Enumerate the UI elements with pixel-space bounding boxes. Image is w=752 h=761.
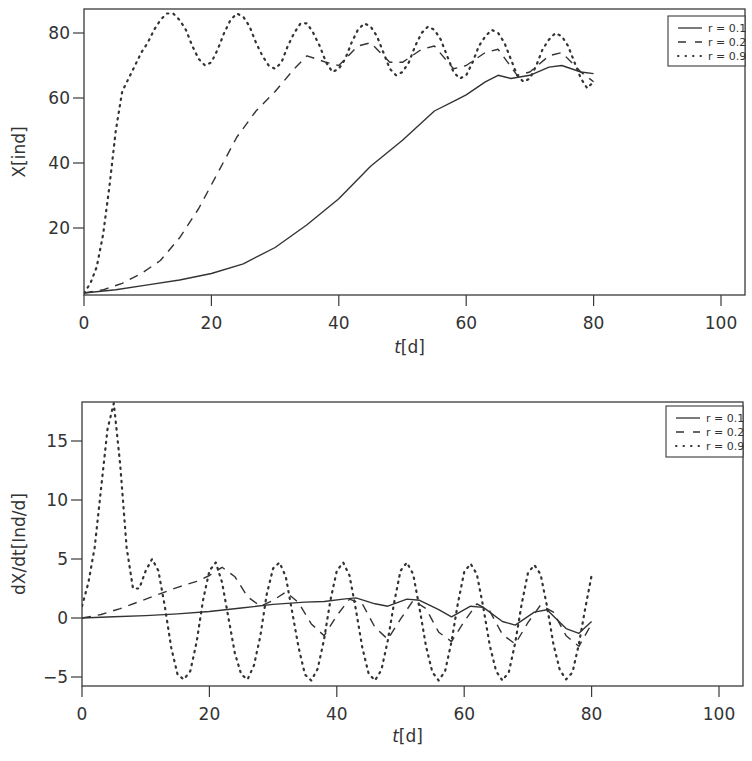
x-axis-label: t[d] [394, 337, 425, 357]
x-tick-label: 60 [455, 313, 477, 333]
y-tick-label: 20 [48, 218, 70, 238]
y-axis-label: dX/dt[Ind/d] [9, 493, 29, 595]
x-tick-label: 20 [201, 313, 223, 333]
x-tick-label: 80 [581, 704, 603, 724]
series-line-r02 [84, 43, 594, 293]
y-tick-label: 40 [48, 153, 70, 173]
y-tick-label: 10 [46, 490, 68, 510]
chart-svg-population: 02040608010020406080t[d]X[ind]r = 0.1r =… [0, 0, 752, 375]
legend-label: r = 0.1 [708, 22, 746, 35]
chart-top-population: 02040608010020406080t[d]X[ind]r = 0.1r =… [0, 0, 752, 375]
y-tick-label: 5 [57, 549, 68, 569]
series-line-r02 [82, 567, 592, 646]
series-group [82, 403, 592, 680]
y-axis-label: X[ind] [9, 126, 29, 177]
y-tick-label: 80 [48, 23, 70, 43]
x-tick-label: 40 [328, 313, 350, 333]
legend-label: r = 0.9 [708, 50, 746, 63]
series-line-r01 [84, 66, 594, 294]
legend-label: r = 0.9 [706, 440, 744, 453]
x-tick-label: 0 [77, 704, 88, 724]
x-tick-label: 80 [583, 313, 605, 333]
series-line-r09 [82, 403, 592, 680]
y-tick-label: 60 [48, 88, 70, 108]
y-tick-label: −5 [43, 667, 68, 687]
legend-label: r = 0.1 [706, 412, 744, 425]
y-tick-label: 15 [46, 431, 68, 451]
legend: r = 0.1r = 0.2r = 0.9 [668, 16, 746, 66]
x-tick-label: 100 [705, 313, 737, 333]
x-tick-label: 20 [199, 704, 221, 724]
x-tick-label: 100 [703, 704, 735, 724]
x-tick-label: 40 [326, 704, 348, 724]
x-tick-label: 60 [453, 704, 475, 724]
plot-frame [82, 402, 743, 686]
chart-bottom-growth-rate: 020406080100−5051015t[d]dX/dt[Ind/d]r = … [0, 390, 752, 761]
legend-label: r = 0.2 [708, 36, 746, 49]
chart-svg-growth-rate: 020406080100−5051015t[d]dX/dt[Ind/d]r = … [0, 390, 752, 761]
x-tick-label: 0 [79, 313, 90, 333]
legend: r = 0.1r = 0.2r = 0.9 [666, 406, 744, 457]
y-tick-label: 0 [57, 608, 68, 628]
series-line-r09 [84, 14, 594, 294]
legend-label: r = 0.2 [706, 426, 744, 439]
series-group [84, 14, 594, 294]
plot-frame [84, 9, 745, 295]
x-axis-label: t[d] [392, 726, 423, 746]
series-line-r01 [82, 598, 592, 633]
